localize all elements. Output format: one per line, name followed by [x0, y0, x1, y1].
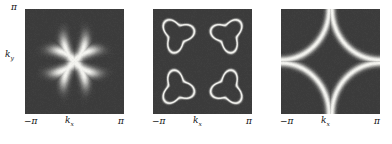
x-tick-max-c: π — [374, 117, 380, 126]
x-axis-label-c: kx — [321, 116, 330, 127]
x-axis-label-sub-a: x — [70, 120, 73, 127]
y-axis-label-a: ky — [5, 50, 14, 61]
figure-root: −π π kx π ky −π π kx −π π kx — [0, 0, 392, 144]
x-axis-label-sub-c: x — [326, 120, 329, 127]
y-axis-label-sub-a: y — [10, 54, 13, 61]
x-tick-min-c: −π — [280, 117, 293, 126]
heatmap-panel-b — [153, 9, 252, 114]
heatmap-panel-c — [281, 9, 380, 114]
x-tick-min-b: −π — [152, 117, 165, 126]
x-axis-label-sub-b: x — [198, 120, 201, 127]
x-axis-label-b: kx — [193, 116, 202, 127]
heatmap-canvas-c — [281, 9, 380, 114]
x-tick-max-b: π — [246, 117, 252, 126]
y-tick-max-a: π — [11, 3, 17, 12]
x-axis-label-a: kx — [65, 116, 74, 127]
heatmap-panel-a — [25, 9, 124, 114]
x-tick-min-a: −π — [24, 117, 37, 126]
heatmap-canvas-a — [25, 9, 124, 114]
heatmap-canvas-b — [153, 9, 252, 114]
x-tick-max-a: π — [118, 117, 124, 126]
